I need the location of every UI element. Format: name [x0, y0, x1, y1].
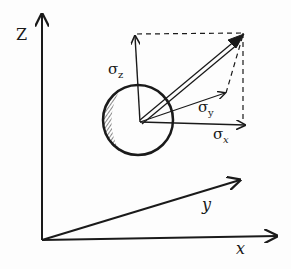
svg-text:σ: σ — [213, 125, 223, 143]
svg-text:σ: σ — [108, 60, 118, 78]
y-axis-label: y — [201, 195, 212, 214]
z-axis-label: Z — [16, 25, 27, 44]
coordinate-axes — [42, 14, 277, 240]
dashed-top — [137, 33, 243, 34]
svg-text:z: z — [118, 69, 123, 80]
resultant-vector-line-b — [142, 44, 238, 124]
sigma-z-arrow — [135, 36, 140, 122]
stress-components — [135, 34, 245, 125]
diagram-canvas: Z x y σ z σ y σ x — [0, 0, 291, 269]
sigma-x-label: σ x — [213, 125, 229, 145]
x-axis-label: x — [236, 239, 245, 258]
sigma-y-label: σ y — [198, 98, 214, 118]
stress-diagram: Z x y σ z σ y σ x — [0, 0, 291, 269]
svg-text:y: y — [207, 107, 214, 118]
resultant-vector-line-a — [140, 40, 236, 120]
sigma-z-label: σ z — [108, 60, 123, 80]
svg-text:σ: σ — [198, 98, 208, 116]
sigma-x-arrow — [140, 122, 245, 125]
svg-text:x: x — [223, 134, 229, 145]
